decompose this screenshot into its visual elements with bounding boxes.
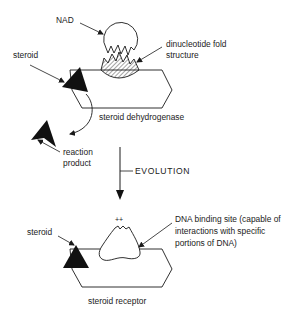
- dna-binding-leader: [139, 223, 172, 247]
- dna-binding-label-line3: portions of DNA): [175, 238, 237, 249]
- receptor-label: steroid receptor: [88, 296, 146, 307]
- reaction-product-leader: [38, 140, 60, 152]
- dinucleotide-label-line1: dinucleotide fold: [166, 39, 227, 50]
- steroid-label-top: steroid: [13, 50, 38, 61]
- reaction-product-label-line2: product: [63, 158, 91, 169]
- nad-molecule: [104, 22, 138, 55]
- reaction-curve-arrow: [70, 94, 92, 134]
- dna-binding-label-line1: DNA binding site (capable of: [175, 214, 281, 225]
- steroid-triangle-bottom: [63, 245, 89, 268]
- evolution-arrow: [116, 147, 133, 200]
- steroid-leader-top: [30, 65, 64, 82]
- charge-label: ++: [115, 214, 123, 225]
- nad-label: NAD: [56, 15, 74, 26]
- dinucleotide-label-line2: structure: [166, 50, 199, 61]
- dna-binding-label-line2: interactions with specific: [175, 226, 265, 237]
- dinucleotide-leader: [137, 47, 162, 62]
- steroid-triangle-top: [62, 67, 88, 92]
- reaction-product-label-line1: reaction: [63, 147, 93, 158]
- enzyme-label: steroid dehydrogenase: [99, 112, 184, 123]
- nad-leader: [80, 23, 103, 34]
- steroid-label-bottom: steroid: [27, 227, 52, 238]
- dna-binding-site: [99, 226, 140, 260]
- evolution-label: EVOLUTION: [135, 166, 190, 177]
- steroid-leader-bottom: [58, 236, 74, 245]
- dinucleotide-fold-region: [101, 52, 139, 78]
- diagram-canvas: [0, 0, 308, 321]
